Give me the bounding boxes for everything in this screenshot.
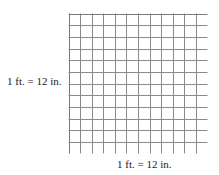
square-foot-grid — [68, 13, 208, 154]
width-label: 1 ft. = 12 in. — [117, 158, 171, 170]
height-label: 1 ft. = 12 in. — [7, 75, 61, 87]
